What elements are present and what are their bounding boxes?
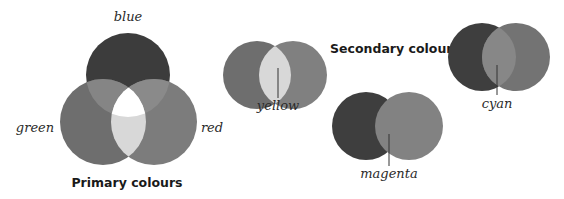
yellow-venn: yellow <box>223 41 327 113</box>
secondary-title: Secondary colours <box>330 41 460 56</box>
magenta-venn: magenta <box>332 92 443 181</box>
yellow-label: yellow <box>256 98 299 113</box>
green-label: green <box>16 120 54 135</box>
magenta-label: magenta <box>360 166 417 181</box>
cyan-venn: cyan <box>448 23 550 111</box>
primary-title: Primary colours <box>71 175 182 190</box>
magenta-right-circle <box>375 92 443 160</box>
blue-label: blue <box>114 9 143 24</box>
colour-mixing-diagram: blue green red Primary colours yellow Se… <box>0 0 564 199</box>
red-label: red <box>201 120 223 135</box>
primary-venn: blue green red Primary colours <box>16 9 223 190</box>
cyan-label: cyan <box>482 96 513 111</box>
